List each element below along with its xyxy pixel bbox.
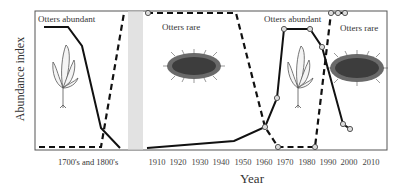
x-tick-era: 1700's and 1800's <box>58 158 118 167</box>
y-axis-label: Abundance index <box>14 37 26 121</box>
x-tick: 1950 <box>235 158 252 167</box>
annotation-otters-rare-2: Otters rare <box>340 24 378 33</box>
annotation-otters-abundant-modern: Otters abundant <box>264 15 321 24</box>
x-axis-label: Year <box>240 172 264 185</box>
kelp-urchin-otter-chart: Otters abundant Otters rare Otters abund… <box>0 0 405 187</box>
annotation-otters-rare-1: Otters rare <box>162 23 200 32</box>
axis-break-band <box>128 12 143 150</box>
x-tick: 1930 <box>192 158 209 167</box>
x-tick: 1990 <box>320 158 337 167</box>
x-tick: 2010 <box>363 158 380 167</box>
plot-frame <box>35 11 387 150</box>
x-tick: 1920 <box>170 158 187 167</box>
annotation-otters-abundant-era: Otters abundant <box>38 15 95 24</box>
x-tick: 1960 <box>256 158 273 167</box>
x-tick: 1980 <box>299 158 316 167</box>
x-tick: 1940 <box>213 158 230 167</box>
x-tick: 1910 <box>149 158 166 167</box>
x-tick: 1970 <box>277 158 294 167</box>
x-tick: 2000 <box>341 158 358 167</box>
